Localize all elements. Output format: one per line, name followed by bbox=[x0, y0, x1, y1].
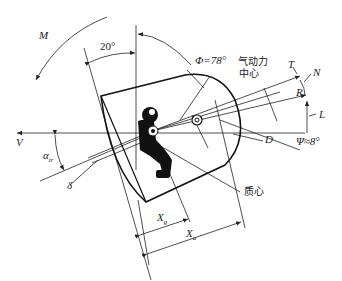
moment-label: M bbox=[39, 30, 48, 41]
T-label: T bbox=[288, 59, 294, 70]
aero-center-label-1: 气动力 bbox=[238, 57, 268, 67]
psi-angle-label: Ψ≈8° bbox=[296, 136, 320, 147]
capsule-outline bbox=[101, 74, 241, 202]
delta-leader bbox=[70, 160, 98, 185]
xa-subscript: a bbox=[193, 234, 197, 242]
delta-label: δ bbox=[67, 180, 72, 191]
tilt-angle-arc bbox=[90, 53, 135, 62]
D-leader bbox=[233, 134, 263, 141]
phi-angle-label: Φ=78° bbox=[195, 55, 226, 66]
alpha-label: αtr bbox=[43, 150, 53, 164]
L-leader bbox=[309, 114, 316, 116]
alpha-arc bbox=[55, 135, 64, 170]
aero-center-symbol bbox=[192, 115, 202, 125]
xa-symbol: X bbox=[186, 227, 193, 239]
diagram-lines bbox=[0, 0, 342, 281]
moment-arc bbox=[36, 17, 107, 80]
occupant-silhouette bbox=[138, 107, 172, 178]
xg-symbol: X bbox=[157, 211, 164, 223]
phi-leader bbox=[187, 70, 204, 88]
attitude-line bbox=[40, 133, 152, 181]
R-label: R bbox=[296, 87, 303, 98]
R-force-line bbox=[152, 95, 306, 131]
L-label: L bbox=[319, 109, 325, 120]
N-force-line bbox=[152, 92, 280, 131]
N-leader bbox=[304, 74, 311, 82]
V-label: V bbox=[16, 137, 23, 148]
xg-label: Xg bbox=[157, 212, 167, 226]
tilt-angle-label: 20° bbox=[100, 41, 115, 52]
helmet-visor bbox=[149, 109, 155, 115]
N-label: N bbox=[313, 67, 320, 78]
alpha-subscript: tr bbox=[49, 156, 54, 164]
diagram-canvas: M 20° Φ=78° 气动力 中心 T N R L D Ψ≈8° V αtr … bbox=[0, 0, 342, 281]
xg-subscript: g bbox=[164, 218, 168, 226]
aero-center-leader bbox=[180, 76, 210, 120]
phi-angle-arc bbox=[138, 34, 191, 65]
xa-label: Xa bbox=[186, 228, 196, 242]
mass-center-label: 质心 bbox=[244, 187, 264, 197]
T-force-line bbox=[152, 76, 300, 131]
aero-center-label-2: 中心 bbox=[239, 69, 259, 79]
psi-leader bbox=[220, 120, 300, 150]
D-label: D bbox=[265, 134, 273, 145]
